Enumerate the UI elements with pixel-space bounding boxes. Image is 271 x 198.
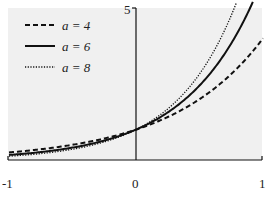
y-tick-label-5: 5 [124,2,131,17]
x-tick-label-0: 0 [132,176,139,191]
x-tick-label-neg1: -1 [2,176,13,191]
x-tick-label-1: 1 [259,176,266,191]
chart: 5 -1 0 1 a = 4 a = 6 a = 8 [0,0,271,198]
legend-label-a6: a = 6 [62,39,91,54]
legend-label-a4: a = 4 [62,18,91,33]
legend-label-a8: a = 8 [62,60,91,75]
